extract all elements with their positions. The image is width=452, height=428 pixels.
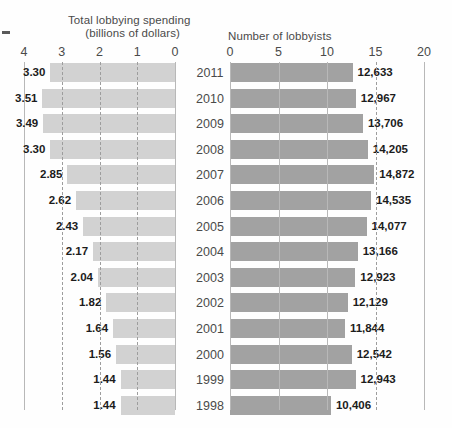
spending-bar [121, 370, 175, 389]
chart-row: 1.44199912,943 [0, 370, 452, 389]
spending-bar [67, 165, 175, 184]
year-label: 2004 [190, 245, 230, 259]
spending-bar [50, 140, 175, 159]
left-axis-tick-3: 3 [58, 45, 65, 59]
spending-value-label: 3.49 [0, 117, 38, 129]
spending-bar [43, 114, 175, 133]
lobbyist-value-label: 11,844 [350, 322, 385, 334]
spending-value-label: 1.44 [73, 373, 116, 385]
year-label: 2009 [190, 117, 230, 131]
spending-value-label: 1.82 [58, 296, 101, 308]
lobbyist-bar [230, 293, 348, 312]
year-label: 2007 [190, 168, 230, 182]
dual-bar-chart: Total lobbying spending (billions of dol… [0, 0, 452, 428]
lobbyist-value-label: 12,923 [360, 271, 395, 283]
lobbyist-value-label: 14,872 [379, 168, 414, 180]
spending-value-label: 3.51 [0, 92, 38, 104]
lobbyist-bar [230, 345, 352, 364]
lobbyist-value-label: 12,967 [361, 92, 396, 104]
left-axis-tick-1: 1 [134, 45, 141, 59]
right-gridline-10 [327, 62, 328, 410]
spending-bar [121, 396, 175, 415]
right-axis-tick-0: 0 [227, 45, 234, 59]
spending-value-label: 1.56 [68, 348, 111, 360]
spending-value-label: 1.64 [65, 322, 108, 334]
chart-row: 1.56200012,542 [0, 345, 452, 364]
spending-bar [83, 217, 175, 236]
corner-dash-mark [2, 31, 10, 34]
year-label: 2006 [190, 194, 230, 208]
chart-row: 1.64200111,844 [0, 319, 452, 338]
spending-bar [50, 63, 175, 82]
spending-value-label: 2.62 [28, 194, 71, 206]
spending-value-label: 3.30 [2, 66, 45, 78]
left-axis-tick-2: 2 [96, 45, 103, 59]
chart-row: 3.30200814,205 [0, 140, 452, 159]
right-axis-tick-10: 10 [320, 45, 334, 59]
chart-row: 2.62200614,535 [0, 191, 452, 210]
chart-row: 3.49200913,706 [0, 114, 452, 133]
lobbyist-bar [230, 396, 331, 415]
year-label: 1999 [190, 373, 230, 387]
chart-row: 1.82200212,129 [0, 293, 452, 312]
year-label: 2005 [190, 220, 230, 234]
left-gridline-3 [62, 62, 63, 410]
lobbyist-value-label: 14,535 [376, 194, 411, 206]
lobbyist-bar [230, 370, 356, 389]
chart-row: 1.44199810,406 [0, 396, 452, 415]
right-axis-tick-5: 5 [275, 45, 282, 59]
lobbyist-bar [230, 114, 363, 133]
left-panel-title-line1: Total lobbying spending [68, 14, 191, 26]
right-gridline-0 [230, 62, 231, 410]
lobbyist-value-label: 12,542 [357, 348, 392, 360]
spending-value-label: 2.17 [45, 245, 88, 257]
chart-row: 2.04200312,923 [0, 268, 452, 287]
left-gridline-1 [137, 62, 138, 410]
spending-value-label: 2.04 [50, 271, 93, 283]
lobbyist-value-label: 12,129 [353, 296, 388, 308]
year-label: 2011 [190, 66, 230, 80]
chart-row: 2.85200714,872 [0, 165, 452, 184]
year-label: 2008 [190, 143, 230, 157]
lobbyist-bar [230, 140, 368, 159]
year-label: 2010 [190, 92, 230, 106]
lobbyist-bar [230, 63, 353, 82]
lobbyist-bar [230, 165, 374, 184]
spending-bar [116, 345, 175, 364]
lobbyist-bar [230, 217, 367, 236]
lobbyist-bar [230, 242, 358, 261]
spending-bar [106, 293, 175, 312]
left-panel-title-line2: (billions of dollars) [68, 27, 180, 40]
chart-row: 2.43200514,077 [0, 217, 452, 236]
year-label: 1998 [190, 399, 230, 413]
right-gridline-15 [376, 62, 377, 410]
spending-value-label: 2.85 [19, 168, 62, 180]
lobbyist-value-label: 12,943 [361, 373, 396, 385]
chart-row: 3.51201012,967 [0, 89, 452, 108]
lobbyist-value-label: 13,706 [368, 117, 403, 129]
lobbyist-value-label: 13,166 [363, 245, 398, 257]
lobbyist-value-label: 14,205 [373, 143, 408, 155]
spending-value-label: 3.30 [2, 143, 45, 155]
left-gridline-2 [100, 62, 101, 410]
spending-bar [113, 319, 175, 338]
lobbyist-bar [230, 191, 371, 210]
year-label: 2003 [190, 271, 230, 285]
lobbyist-bar [230, 268, 355, 287]
spending-bar [76, 191, 175, 210]
year-label: 2002 [190, 296, 230, 310]
spending-value-label: 2.43 [35, 220, 78, 232]
right-axis-tick-15: 15 [369, 45, 383, 59]
lobbyist-value-label: 10,406 [336, 399, 371, 411]
year-label: 2001 [190, 322, 230, 336]
spending-bar [93, 242, 175, 261]
left-axis-tick-0: 0 [172, 45, 179, 59]
spending-value-label: 1.44 [73, 399, 116, 411]
chart-row: 2.17200413,166 [0, 242, 452, 261]
year-label: 2000 [190, 348, 230, 362]
left-axis-tick-4: 4 [21, 45, 28, 59]
lobbyist-bar [230, 89, 356, 108]
left-panel-title: Total lobbying spending (billions of dol… [68, 14, 180, 40]
right-panel-title: Number of lobbyists [228, 30, 332, 43]
chart-row: 3.30201112,633 [0, 63, 452, 82]
